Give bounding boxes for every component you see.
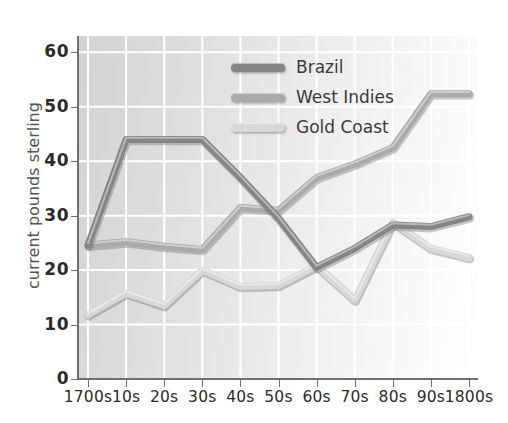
legend-label: Gold Coast — [296, 117, 389, 137]
x-tick-label: 1800s — [439, 388, 499, 406]
y-tick-mark — [71, 52, 78, 53]
y-axis-title: current pounds sterling — [24, 71, 43, 321]
x-tick-mark — [431, 380, 432, 387]
y-axis-spine — [77, 36, 79, 380]
y-tick-mark — [71, 270, 78, 271]
y-tick-label: 60 — [33, 41, 69, 61]
x-tick-mark — [393, 380, 394, 387]
legend-item: Gold Coast — [231, 112, 411, 142]
y-tick-mark — [71, 379, 78, 380]
legend-label: West Indies — [296, 87, 394, 107]
x-tick-mark — [355, 380, 356, 387]
y-tick-mark — [71, 107, 78, 108]
legend-swatch-icon — [231, 123, 285, 132]
legend-swatch-icon — [231, 93, 285, 102]
x-tick-mark — [202, 380, 203, 387]
x-tick-mark — [164, 380, 165, 387]
y-tick-mark — [71, 161, 78, 162]
x-axis-spine — [77, 378, 478, 380]
x-tick-mark — [469, 380, 470, 387]
series-line-gold-coast — [88, 222, 469, 315]
y-tick-mark — [71, 216, 78, 217]
legend-item: Brazil — [231, 52, 411, 82]
y-tick-label: 0 — [33, 368, 69, 388]
y-tick-mark — [71, 325, 78, 326]
x-tick-mark — [279, 380, 280, 387]
x-tick-mark — [126, 380, 127, 387]
x-tick-mark — [88, 380, 89, 387]
x-tick-mark — [317, 380, 318, 387]
line-chart: 0102030405060 1700s10s20s30s40s50s60s70s… — [0, 0, 508, 423]
legend-swatch-icon — [231, 63, 285, 72]
legend-label: Brazil — [296, 57, 343, 77]
legend-item: West Indies — [231, 82, 411, 112]
chart-legend: BrazilWest IndiesGold Coast — [231, 52, 411, 142]
x-tick-mark — [240, 380, 241, 387]
